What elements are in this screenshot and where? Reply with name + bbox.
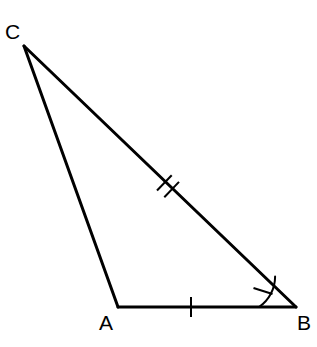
triangle-figure bbox=[0, 0, 317, 347]
side-cb-line bbox=[24, 46, 296, 307]
vertex-label-a: A bbox=[99, 312, 113, 333]
vertex-label-b: B bbox=[297, 312, 311, 333]
triangle-diagram: C A B bbox=[0, 0, 317, 347]
side-ca-line bbox=[24, 46, 118, 307]
vertex-label-c: C bbox=[5, 21, 20, 42]
angle-b-mark-group bbox=[254, 276, 276, 307]
angle-b-tick-mark bbox=[254, 288, 273, 294]
